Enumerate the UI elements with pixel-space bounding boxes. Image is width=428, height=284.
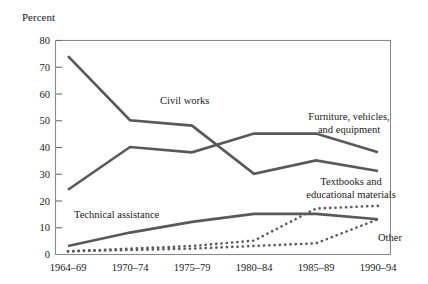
x-tick-label: 1990–94	[360, 262, 398, 273]
y-tick-label: 20	[40, 196, 51, 207]
y-axis-title: Percent	[22, 11, 55, 23]
chart-container: Percent 01020304050607080 1964–691970–74…	[0, 0, 428, 284]
y-tick-label: 40	[40, 142, 51, 153]
x-tick-label: 1975–79	[174, 262, 211, 273]
series-label-textbooks-and-educational-materials: Textbooks andeducational materials	[306, 176, 396, 200]
y-tick-label: 50	[40, 115, 51, 126]
y-tick-label: 30	[40, 169, 51, 180]
plot-frame	[56, 41, 391, 255]
y-tick-label: 60	[40, 89, 51, 100]
y-tick-label: 10	[40, 222, 51, 233]
x-axis-labels: 1964–691970–741975–791980–841985–891990–…	[50, 262, 398, 273]
y-axis-ticks: 01020304050607080	[40, 35, 63, 260]
y-tick-label: 70	[40, 62, 51, 73]
series-label-civil-works: Civil works	[160, 95, 209, 106]
series-label-furniture-vehicles-and-equipment: Furniture, vehicles,and equipment	[308, 111, 389, 135]
series-label-other: Other	[378, 232, 402, 243]
x-tick-label: 1980–84	[236, 262, 274, 273]
x-tick-label: 1985–89	[298, 262, 335, 273]
y-tick-label: 0	[45, 249, 50, 260]
y-tick-label: 80	[40, 35, 51, 46]
series-annotations: Civil worksFurniture, vehicles,and equip…	[74, 95, 402, 243]
x-tick-label: 1970–74	[112, 262, 150, 273]
percent-line-chart: Percent 01020304050607080 1964–691970–74…	[0, 0, 428, 284]
x-tick-label: 1964–69	[50, 262, 87, 273]
series-lines	[68, 56, 378, 251]
series-label-technical-assistance: Technical assistance	[74, 209, 160, 220]
